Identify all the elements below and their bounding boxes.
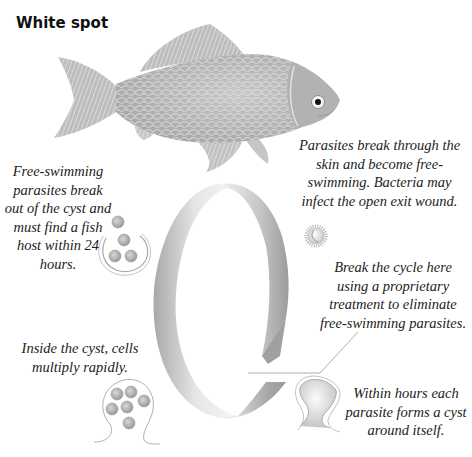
parasite-trophont-icon: [306, 226, 326, 246]
caption-cyst-forms: Within hours each parasite forms a cyst …: [340, 384, 472, 440]
caption-break-through-skin: Parasites break through the skin and bec…: [292, 136, 467, 210]
cyst-forming-icon: [296, 376, 340, 432]
caption-free-swimming: Free-swimming parasites break out of the…: [4, 162, 112, 274]
cyst-dividing-cells-icon: [94, 379, 160, 444]
caption-break-the-cycle: Break the cycle here using a proprietary…: [318, 258, 468, 332]
caption-inside-cyst: Inside the cyst, cells multiply rapidly.: [6, 339, 154, 376]
